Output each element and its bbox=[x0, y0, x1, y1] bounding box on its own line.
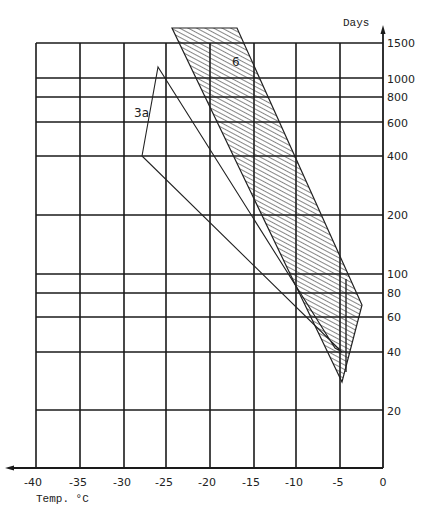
x-tick--5: -5 bbox=[333, 476, 344, 489]
x-axis bbox=[5, 466, 383, 471]
arrow-up-icon bbox=[381, 25, 386, 34]
x-tick--10: -10 bbox=[285, 476, 303, 489]
chart: 3a 6 Days 1500 1000 800 600 400 200 100 … bbox=[0, 0, 430, 526]
x-tick--35: -35 bbox=[69, 476, 87, 489]
y-axis bbox=[381, 25, 386, 468]
x-tick--25: -25 bbox=[155, 476, 173, 489]
arrow-left-icon bbox=[5, 466, 14, 471]
y-tick-200: 200 bbox=[387, 209, 408, 222]
y-tick-60: 60 bbox=[387, 311, 401, 324]
x-tick--15: -15 bbox=[242, 476, 260, 489]
x-tick--20: -20 bbox=[198, 476, 216, 489]
y-tick-100: 100 bbox=[387, 268, 408, 281]
y-tick-80: 80 bbox=[387, 287, 401, 300]
x-tick--30: -30 bbox=[113, 476, 131, 489]
y-tick-20: 20 bbox=[387, 405, 401, 418]
x-tick-labels: -40 -35 -30 -25 -20 -15 -10 -5 0 bbox=[24, 476, 386, 489]
y-axis-title: Days bbox=[343, 17, 369, 29]
x-tick-0: 0 bbox=[380, 476, 387, 489]
y-tick-40: 40 bbox=[387, 346, 401, 359]
y-tick-labels: 1500 1000 800 600 400 200 100 80 60 40 2… bbox=[387, 37, 415, 418]
x-tick--40: -40 bbox=[24, 476, 42, 489]
x-axis-title: Temp. °C bbox=[36, 493, 89, 505]
y-tick-1500: 1500 bbox=[387, 37, 415, 50]
series-label-3a: 3a bbox=[134, 106, 149, 120]
y-tick-1000: 1000 bbox=[387, 73, 415, 86]
series-6-hatched bbox=[172, 28, 362, 382]
y-tick-400: 400 bbox=[387, 150, 408, 163]
y-tick-800: 800 bbox=[387, 91, 408, 104]
y-tick-600: 600 bbox=[387, 117, 408, 130]
series-label-6: 6 bbox=[232, 55, 240, 69]
